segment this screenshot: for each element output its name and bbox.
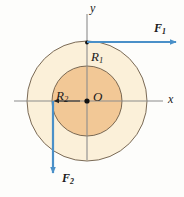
label-origin: O: [93, 90, 102, 103]
physics-figure: R1 R2 O x y F1 F2: [0, 0, 184, 197]
label-force-f1: F1: [154, 22, 166, 36]
label-radius-inner: R2: [56, 89, 68, 103]
origin-point: [84, 98, 89, 103]
label-axis-x: x: [168, 93, 173, 105]
label-force-f2: F2: [62, 172, 74, 186]
label-radius-outer: R1: [91, 50, 103, 64]
label-axis-y: y: [90, 2, 95, 14]
